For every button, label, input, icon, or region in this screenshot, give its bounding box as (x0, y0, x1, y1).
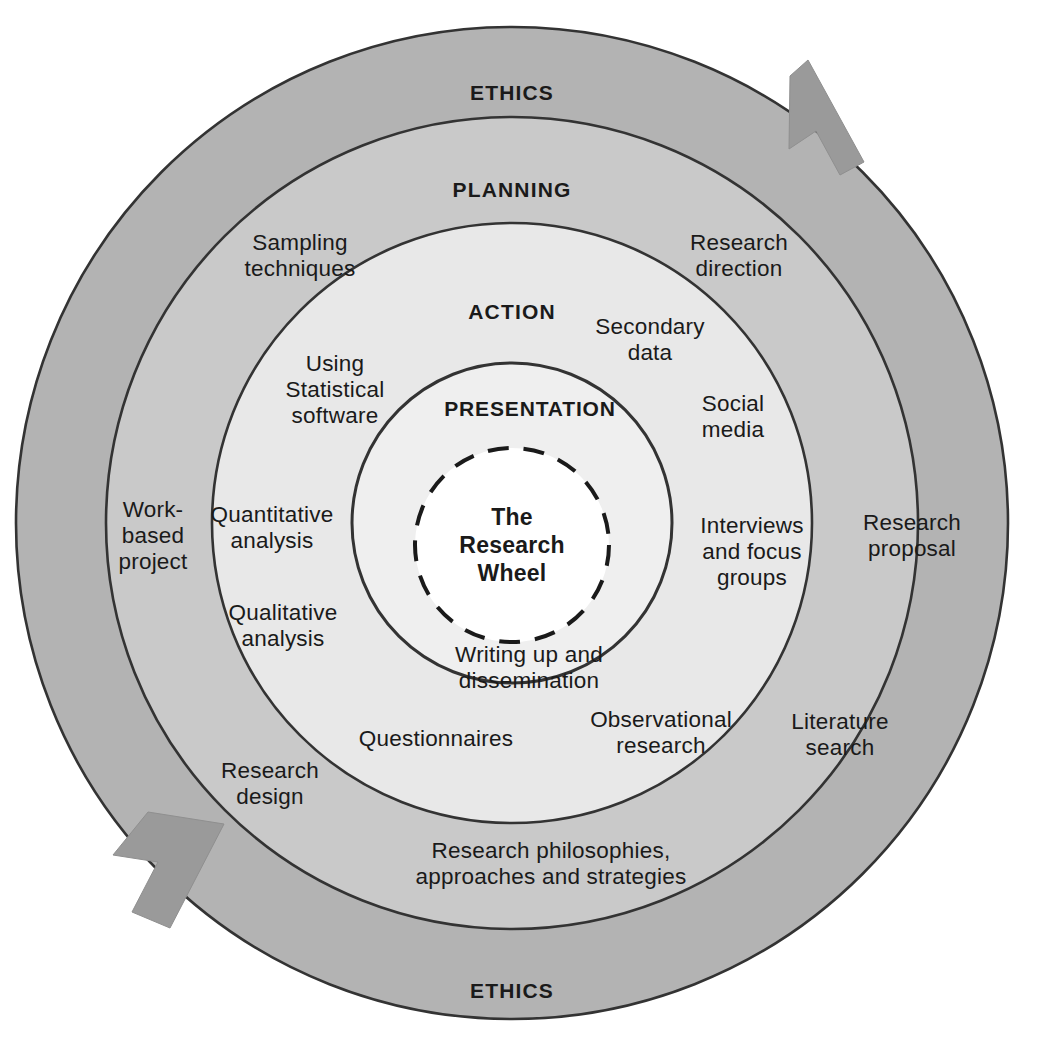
center-title: The Research Wheel (459, 503, 564, 587)
planning-item-research-proposal: Research proposal (863, 510, 961, 562)
action-item-quantitative-analysis: Quantitative analysis (211, 502, 334, 554)
ring-label-ethics-top: ETHICS (470, 81, 554, 105)
planning-item-literature-search: Literature search (791, 709, 888, 761)
planning-item-work-based-project: Work- based project (118, 497, 187, 575)
planning-item-research-philosophies: Research philosophies, approaches and st… (416, 838, 687, 890)
ring-label-action: ACTION (468, 300, 555, 324)
action-item-using-statistical-software: Using Statistical software (286, 351, 385, 429)
ring-label-planning: PLANNING (453, 178, 572, 202)
research-wheel-diagram: ETHICS PLANNING ACTION PRESENTATION ETHI… (0, 0, 1064, 1056)
action-item-interviews-and-focus-groups: Interviews and focus groups (700, 513, 804, 591)
planning-item-research-design: Research design (221, 758, 319, 810)
presentation-item-writing-up-and-dissemination: Writing up and dissemination (455, 642, 603, 694)
ring-label-presentation: PRESENTATION (444, 397, 615, 421)
planning-item-sampling-techniques: Sampling techniques (244, 230, 355, 282)
action-item-secondary-data: Secondary data (595, 314, 705, 366)
planning-item-research-direction: Research direction (690, 230, 788, 282)
action-item-questionnaires: Questionnaires (359, 726, 514, 752)
action-item-qualitative-analysis: Qualitative analysis (229, 600, 338, 652)
action-item-observational-research: Observational research (590, 707, 732, 759)
ring-label-ethics-bottom: ETHICS (470, 979, 554, 1003)
action-item-social-media: Social media (702, 391, 765, 443)
